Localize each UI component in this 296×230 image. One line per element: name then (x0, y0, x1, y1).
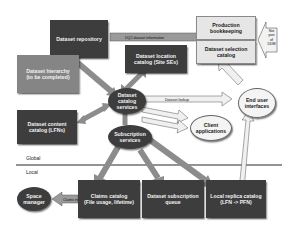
dataset-lookup-arrow: Dataset lookup (142, 92, 232, 106)
svg-text:Dataset lookup: Dataset lookup (165, 98, 189, 102)
box-label: Claims catalog (File usage, lifetime) (84, 193, 134, 206)
oval-label: End user interfaces (245, 97, 270, 109)
content-lookup-arrow (76, 103, 112, 124)
end-user-interfaces-oval: End user interfaces (238, 88, 276, 118)
dataset-location-catalog-box: Dataset location catalog (Site SEs) (125, 45, 187, 73)
local-region-label: Local (26, 169, 38, 175)
box-label: Dataset hierarchy (to be completed) (26, 68, 70, 81)
dataset-management-arrow (142, 107, 188, 133)
data-access-arrow (239, 110, 254, 190)
dataset-selection-catalog-box: Dataset selection catalog (196, 40, 256, 64)
local-replica-catalog-box: Local replica catalog (LFN -> PFN) (206, 180, 266, 218)
oval-label: Client applications (196, 122, 226, 134)
box-label: Dataset content catalog (LFNs) (28, 121, 67, 134)
claims-catalog-box: Claims catalog (File usage, lifetime) (78, 180, 140, 218)
oval-label: Dataset catalog services (117, 92, 138, 111)
dataset-content-catalog-box: Dataset content catalog (LFNs) (17, 110, 77, 144)
not-part-label: Not part of DDM (266, 29, 277, 46)
box-label: Dataset subscription queue (147, 193, 198, 206)
dataset-subscription-queue-box: Dataset subscription queue (142, 180, 204, 218)
svg-text:DQ2 dataset information: DQ2 dataset information (125, 36, 164, 40)
not-part-of-ddm-callout: Not part of DDM (258, 18, 278, 62)
space-manager-oval: Space manager (17, 187, 51, 211)
dataset-catalog-services-oval: Dataset catalog services (108, 88, 146, 114)
box-label: Production bookkeeping (210, 22, 242, 35)
subscription-services-oval: Subscription services (108, 125, 152, 149)
dataset-hierarchy-box: Dataset hierarchy (to be completed) (17, 55, 79, 93)
oval-label: Space manager (23, 193, 45, 205)
global-region-label: Global (26, 155, 40, 161)
claims-info-arrow: Claims info (52, 192, 81, 206)
oval-label: Subscription services (114, 131, 146, 143)
dataset-repository-box: Dataset repository (50, 20, 108, 58)
box-label: Dataset repository (56, 36, 102, 43)
box-label: Dataset location catalog (Site SEs) (134, 53, 178, 66)
production-bookkeeping-box: Production bookkeeping (196, 16, 256, 40)
box-label: Dataset selection catalog (205, 46, 248, 59)
client-applications-oval: Client applications (190, 115, 232, 141)
box-label: Local replica catalog (LFN -> PFN) (210, 193, 261, 206)
